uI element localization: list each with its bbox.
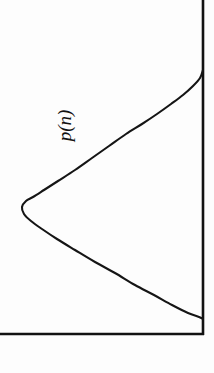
density-curve	[22, 70, 203, 319]
distribution-figure: p(n)	[0, 0, 214, 373]
plot-canvas	[0, 0, 214, 373]
